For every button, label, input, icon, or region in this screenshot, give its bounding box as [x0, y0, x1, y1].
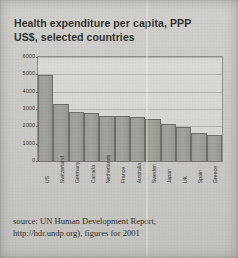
- x-axis-label-slot: Canada: [84, 160, 99, 184]
- x-axis-label-slot: France: [115, 160, 130, 184]
- bar-slot: [38, 57, 53, 161]
- source-note: source: UN Human Development Report, htt…: [13, 216, 231, 239]
- x-axis-label-slot: Spain: [191, 160, 206, 184]
- bar-slot: [191, 57, 206, 161]
- y-axis-tick-label: 2000: [11, 123, 35, 129]
- bar-slot: [99, 57, 114, 161]
- x-axis-tick-label: Sweden: [152, 164, 157, 183]
- bar-slot: [115, 57, 130, 161]
- bar-chart: 6000500040003000200010000 USSwitzerlandG…: [11, 52, 227, 184]
- bar-slot: [84, 57, 99, 161]
- bar-series: [38, 57, 222, 161]
- x-axis-tick-label: Germany: [75, 161, 80, 183]
- x-axis-label-slot: Greece: [207, 160, 222, 184]
- bar-slot: [161, 57, 176, 161]
- source-note-line-2: http://hdr.undp.org), figures for 2001: [13, 228, 231, 240]
- x-axis-tick-label: Netherlands: [106, 154, 111, 183]
- x-axis-tick-label: Spain: [198, 169, 203, 183]
- y-axis-tick-label: 1000: [11, 141, 35, 147]
- x-axis-label-slot: Netherlands: [99, 160, 114, 184]
- bar: [191, 133, 206, 161]
- x-axis-labels: USSwitzerlandGermanyCanadaNetherlandsFra…: [38, 160, 222, 184]
- bar: [53, 104, 68, 161]
- x-axis-tick-label: Switzerland: [60, 156, 65, 183]
- x-axis-label-slot: Australia: [130, 160, 145, 184]
- bar-slot: [207, 57, 222, 161]
- x-axis-label-slot: US: [38, 160, 53, 184]
- y-axis-tick-label: 3000: [11, 106, 35, 112]
- bar-slot: [130, 57, 145, 161]
- y-axis-tick-label: 6000: [11, 54, 35, 60]
- chart-title-line-2: US$, selected countries: [14, 30, 224, 44]
- scanned-figure-page: Health expenditure per capita, PPP US$, …: [0, 0, 238, 258]
- bar: [69, 112, 84, 161]
- x-axis-label-slot: UK: [176, 160, 191, 184]
- y-axis-tick-label: 0: [11, 158, 35, 164]
- x-axis-label-slot: Germany: [69, 160, 84, 184]
- bar: [130, 117, 145, 161]
- bar-slot: [69, 57, 84, 161]
- bar: [207, 135, 222, 161]
- x-axis-tick-label: Australia: [136, 162, 141, 183]
- bar: [84, 113, 99, 161]
- x-axis-tick-label: Japan: [167, 169, 172, 183]
- x-axis-label-slot: Switzerland: [53, 160, 68, 184]
- bar: [176, 127, 191, 161]
- chart-title: Health expenditure per capita, PPP US$, …: [14, 16, 224, 44]
- x-axis-tick-label: US: [44, 176, 49, 183]
- x-axis-tick-label: France: [121, 167, 126, 184]
- x-axis-tick-label: Greece: [213, 166, 218, 183]
- bar: [161, 124, 176, 161]
- bar-slot: [176, 57, 191, 161]
- x-axis-label-slot: Sweden: [145, 160, 160, 184]
- chart-title-line-1: Health expenditure per capita, PPP: [14, 17, 191, 29]
- y-axis-tick-label: 4000: [11, 89, 35, 95]
- bar: [115, 116, 130, 161]
- source-note-line-1: source: UN Human Development Report,: [13, 216, 156, 226]
- bar: [145, 119, 160, 161]
- x-axis-tick-label: UK: [182, 176, 187, 183]
- bar-slot: [145, 57, 160, 161]
- x-axis-tick-label: Canada: [90, 164, 95, 183]
- x-axis-label-slot: Japan: [161, 160, 176, 184]
- bar-slot: [53, 57, 68, 161]
- y-axis-tick-label: 5000: [11, 71, 35, 77]
- bar: [38, 75, 53, 161]
